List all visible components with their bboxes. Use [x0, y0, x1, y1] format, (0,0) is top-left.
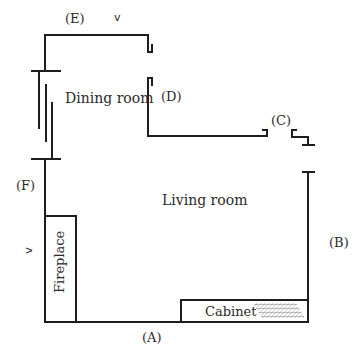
- fixture-label-cabinet: Cabinet: [205, 305, 256, 318]
- dining-right-wall: [148, 78, 267, 136]
- arrow-down-icon: v: [114, 12, 121, 23]
- fixture-label-fireplace: Fireplace: [53, 231, 66, 293]
- opening-c-right-jamb: [292, 130, 308, 145]
- marker-e: (E): [65, 12, 85, 25]
- marker-b: (B): [329, 236, 349, 249]
- marker-c: (C): [271, 114, 291, 127]
- dining-top-wall: [45, 35, 152, 71]
- marker-d: (D): [161, 90, 182, 103]
- arrow-right-icon: v: [23, 247, 34, 254]
- cabinet-hatch: [253, 303, 305, 318]
- floor-plan-drawing: [0, 0, 359, 354]
- room-label-dining: Dining room: [65, 91, 153, 105]
- room-label-living: Living room: [162, 193, 247, 207]
- marker-f: (F): [16, 179, 35, 192]
- marker-a: (A): [142, 331, 162, 344]
